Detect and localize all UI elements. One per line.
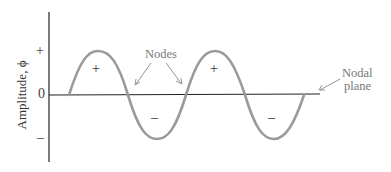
y-tick-zero: 0: [38, 86, 45, 102]
standing-wave-diagram: Amplitude, ϕ + 0 – + – + – Nodes Nodal p…: [0, 0, 391, 172]
lobe-sign-plus-1: +: [92, 61, 100, 77]
lobe-sign-minus-1: –: [151, 110, 158, 126]
nodal-plane-arrow: [320, 79, 340, 90]
nodes-label: Nodes: [145, 48, 177, 61]
node-arrow-left: [136, 63, 151, 84]
nodal-plane-line: [49, 94, 320, 95]
diagram-canvas: [0, 0, 391, 172]
lobe-sign-minus-2: –: [268, 110, 275, 126]
nodal-plane-label-line2: plane: [344, 80, 371, 93]
node-arrow-right: [166, 63, 181, 83]
y-tick-plus: +: [36, 43, 44, 59]
lobe-sign-plus-2: +: [210, 61, 218, 77]
y-tick-minus: –: [37, 130, 44, 146]
y-axis-label: Amplitude, ϕ: [14, 61, 30, 130]
